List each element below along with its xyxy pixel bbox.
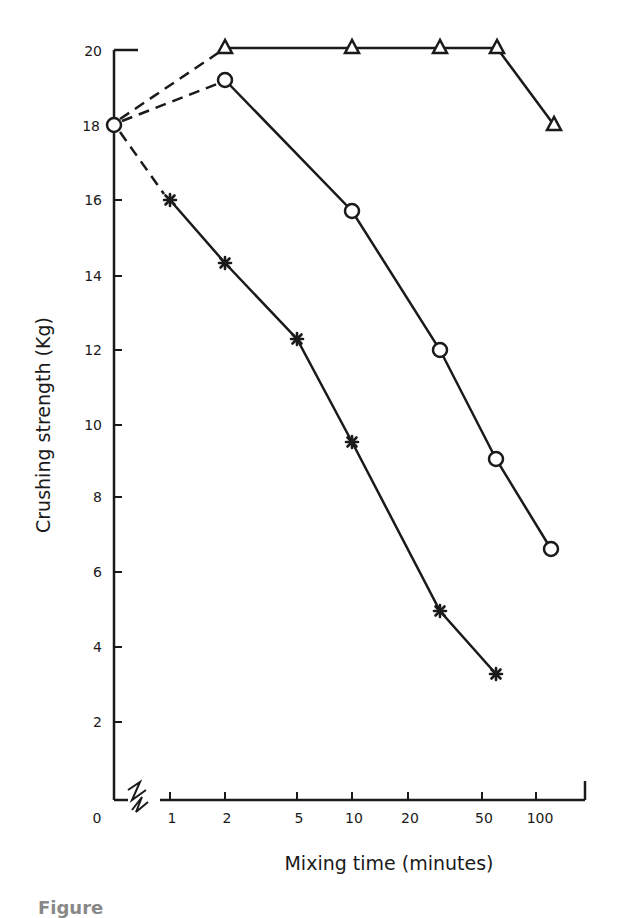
star-marker bbox=[346, 436, 358, 448]
star-markers bbox=[164, 194, 502, 680]
triangle-marker bbox=[218, 40, 232, 53]
circle-marker bbox=[218, 73, 232, 87]
axes bbox=[114, 50, 585, 812]
circle-marker bbox=[489, 452, 503, 466]
star-marker bbox=[291, 333, 303, 345]
star-marker bbox=[434, 605, 446, 617]
triangle-marker bbox=[490, 40, 504, 53]
circle-dashed-segment bbox=[122, 84, 217, 121]
y-tick-labels: 2 4 6 8 10 12 14 16 18 20 bbox=[82, 43, 102, 730]
star-marker bbox=[219, 257, 231, 269]
y-tick-label: 12 bbox=[84, 342, 102, 358]
x-tick-labels: 0 1 2 5 10 20 50 100 bbox=[93, 810, 554, 826]
triangle-marker bbox=[433, 40, 447, 53]
origin-circle-marker bbox=[107, 118, 121, 132]
y-tick-label: 8 bbox=[93, 489, 102, 505]
y-axis-title: Crushing strength (Kg) bbox=[32, 317, 54, 533]
triangle-series-line bbox=[225, 48, 554, 125]
star-marker bbox=[490, 668, 502, 680]
y-tick-label: 18 bbox=[82, 118, 100, 134]
y-tick-label: 16 bbox=[84, 192, 102, 208]
x-axis-title: Mixing time (minutes) bbox=[284, 852, 493, 874]
star-series-line bbox=[170, 200, 496, 674]
x-tick-label: 1 bbox=[168, 810, 177, 826]
star-marker bbox=[164, 194, 176, 206]
circle-marker bbox=[433, 343, 447, 357]
x-tick-label: 5 bbox=[295, 810, 304, 826]
series-lines bbox=[170, 48, 554, 674]
x-tick-label: 0 bbox=[93, 810, 102, 826]
x-tick-label: 2 bbox=[223, 810, 232, 826]
y-tick-label: 6 bbox=[93, 564, 102, 580]
x-tick-label: 50 bbox=[475, 810, 493, 826]
y-tick-label: 4 bbox=[93, 639, 102, 655]
x-tick-label: 10 bbox=[345, 810, 363, 826]
y-tick-label: 10 bbox=[84, 417, 102, 433]
x-ticks bbox=[170, 792, 536, 800]
figure-caption-fragment: Figure bbox=[38, 897, 103, 918]
triangle-marker bbox=[345, 40, 359, 53]
y-tick-label: 14 bbox=[84, 268, 102, 284]
circle-marker bbox=[345, 204, 359, 218]
triangle-dashed-segment bbox=[120, 53, 218, 119]
triangle-markers bbox=[218, 40, 561, 130]
star-dashed-segment bbox=[120, 132, 164, 194]
x-tick-label: 20 bbox=[401, 810, 419, 826]
circle-markers bbox=[218, 73, 558, 556]
x-tick-label: 100 bbox=[527, 810, 554, 826]
y-tick-label: 20 bbox=[84, 43, 102, 59]
circle-marker bbox=[544, 542, 558, 556]
dashed-connectors bbox=[120, 53, 218, 194]
axis-break-icon bbox=[128, 782, 148, 812]
y-tick-label: 2 bbox=[93, 714, 102, 730]
